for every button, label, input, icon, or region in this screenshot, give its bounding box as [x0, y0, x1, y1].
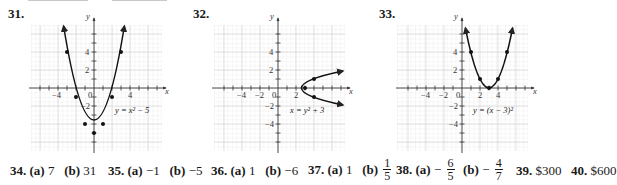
- fraction: 15: [383, 157, 391, 182]
- sign: −: [434, 162, 441, 177]
- part-value: 7: [48, 163, 55, 178]
- tick-label: −2: [449, 101, 458, 111]
- fraction: 65: [447, 157, 455, 182]
- answer-number: 39.: [516, 163, 532, 178]
- answer-34: 34. (a) 7 (b) 31: [10, 163, 96, 179]
- part-value: 31: [83, 163, 96, 178]
- tick-label: 2: [478, 90, 482, 100]
- y-axis-label-33: y: [453, 11, 458, 21]
- part-label: (a): [231, 163, 246, 178]
- answer-number: 34.: [10, 163, 26, 178]
- answer-number: 40.: [571, 163, 587, 178]
- part-label: (a): [328, 162, 343, 177]
- part-value: −5: [189, 163, 203, 178]
- denominator: 5: [447, 170, 455, 182]
- answer-number: 38.: [396, 162, 412, 177]
- fraction: 47: [495, 157, 503, 182]
- denominator: 5: [383, 170, 391, 182]
- part-label: (a): [128, 163, 143, 178]
- answer-39: 39. $300: [516, 163, 562, 179]
- answer-value: $300: [536, 163, 562, 178]
- origin-label-33: 0: [456, 90, 460, 100]
- part-label: (b): [265, 163, 281, 178]
- answer-35: 35. (a) −1 (b) −5: [108, 163, 203, 179]
- answer-37: 37. (a) 1 (b) 15: [308, 159, 393, 184]
- part-value: −6: [284, 163, 298, 178]
- tick-label: 2: [453, 65, 457, 75]
- tick-label: −2: [439, 90, 448, 100]
- answer-36: 36. (a) 1 (b) −6: [211, 163, 298, 179]
- part-value: 1: [346, 162, 353, 177]
- part-value: 1: [249, 163, 256, 178]
- part-label: (b): [362, 162, 378, 177]
- part-label: (b): [463, 162, 479, 177]
- answer-40: 40. $600: [571, 163, 617, 179]
- graph-33: x y 0 −4 −2 2 4 4 2 −2 −4 y = (x − 3)²: [0, 0, 616, 160]
- x-axis-label-33: x: [532, 86, 537, 96]
- answer-number: 36.: [211, 163, 227, 178]
- answer-number: 37.: [308, 162, 324, 177]
- part-label: (b): [170, 163, 186, 178]
- tick-label: −4: [421, 90, 431, 100]
- part-value: −1: [146, 163, 160, 178]
- answer-value: $600: [591, 163, 617, 178]
- denominator: 7: [495, 170, 503, 182]
- tick-label: −4: [449, 119, 459, 129]
- part-label: (a): [30, 163, 45, 178]
- answer-number: 35.: [108, 163, 124, 178]
- answers-row: 34. (a) 7 (b) 31 35. (a) −1 (b) −5 36. (…: [10, 158, 616, 185]
- equation-label-33: y = (x − 3)²: [472, 105, 513, 115]
- part-label: (a): [416, 162, 431, 177]
- answer-38: 38. (a) − 65 (b) − 47: [396, 159, 505, 184]
- part-label: (b): [64, 163, 80, 178]
- sign: −: [482, 162, 489, 177]
